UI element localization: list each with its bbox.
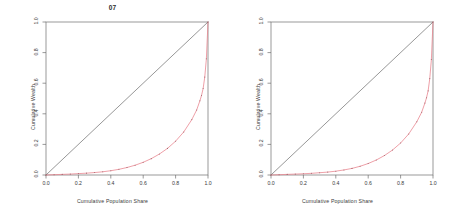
y-axis-label-right: Cumulative Wealth	[255, 84, 261, 130]
lorenz-data-point	[360, 166, 361, 167]
lorenz-data-point	[270, 174, 271, 175]
lorenz-data-point	[203, 88, 204, 89]
y-axis-label-left: Cumulative Wealth	[30, 84, 36, 130]
lorenz-data-point	[287, 174, 288, 175]
lorenz-data-point	[279, 174, 280, 175]
x-tick-label: 0.2	[300, 180, 307, 186]
lorenz-data-point	[311, 173, 312, 174]
x-tick-label: 0.6	[365, 180, 372, 186]
lorenz-data-point	[408, 133, 409, 134]
lorenz-data-point	[376, 159, 377, 160]
y-tick-label: 0.4	[30, 110, 42, 116]
lorenz-data-point	[54, 174, 55, 175]
lorenz-data-point	[327, 172, 328, 173]
lorenz-data-point	[135, 165, 136, 166]
lorenz-data-point	[183, 131, 184, 132]
lorenz-data-point	[45, 174, 46, 175]
lorenz-data-point	[343, 169, 344, 170]
chart-panel-left: 07 Cumulative Population Share Cumulativ…	[0, 0, 225, 214]
chart-panel-right: Cumulative Population Share Cumulative W…	[225, 0, 450, 214]
lorenz-data-point	[159, 153, 160, 154]
lorenz-data-point	[70, 174, 71, 175]
y-tick-label: 0.8	[255, 49, 267, 55]
lorenz-data-point	[295, 174, 296, 175]
x-tick-label: 0.8	[397, 180, 404, 186]
lorenz-data-point	[167, 148, 168, 149]
lorenz-data-point	[196, 109, 197, 110]
lorenz-data-point	[429, 78, 430, 79]
y-tick-label: 1.0	[255, 18, 267, 24]
lorenz-data-point	[62, 174, 63, 175]
lorenz-data-point	[126, 167, 127, 168]
lorenz-data-point	[384, 155, 385, 156]
equality-line	[46, 22, 208, 175]
lorenz-curve-figure: 07 Cumulative Population Share Cumulativ…	[0, 0, 450, 214]
x-axis-label-left: Cumulative Population Share	[0, 198, 225, 204]
lorenz-data-point	[206, 58, 207, 59]
x-tick-label: 0.0	[42, 180, 49, 186]
y-tick-label: 0.6	[255, 79, 267, 85]
x-tick-label: 0.4	[332, 180, 339, 186]
lorenz-data-point	[432, 21, 433, 22]
lorenz-data-point	[426, 97, 427, 98]
lorenz-data-point	[335, 171, 336, 172]
lorenz-data-point	[416, 121, 417, 122]
lorenz-data-point	[400, 142, 401, 143]
y-tick-label: 0.2	[30, 140, 42, 146]
x-tick-label: 0.4	[107, 180, 114, 186]
lorenz-data-point	[110, 170, 111, 171]
lorenz-data-point	[191, 119, 192, 120]
lorenz-data-point	[143, 162, 144, 163]
lorenz-data-point	[94, 172, 95, 173]
lorenz-data-point	[319, 172, 320, 173]
x-axis-label-right: Cumulative Population Share	[225, 198, 450, 204]
lorenz-data-point	[86, 173, 87, 174]
x-tick-label: 0.0	[267, 180, 274, 186]
lorenz-data-point	[431, 59, 432, 60]
lorenz-data-point	[78, 173, 79, 174]
lorenz-data-point	[392, 150, 393, 151]
lorenz-data-point	[204, 77, 205, 78]
lorenz-data-point	[303, 173, 304, 174]
lorenz-data-point	[199, 100, 200, 101]
lorenz-data-point	[118, 169, 119, 170]
x-tick-label: 0.2	[75, 180, 82, 186]
x-tick-label: 1.0	[204, 180, 211, 186]
y-tick-label: 0.6	[30, 79, 42, 85]
y-tick-label: 0.8	[30, 49, 42, 55]
lorenz-data-point	[175, 141, 176, 142]
lorenz-data-point	[207, 21, 208, 22]
equality-line	[271, 22, 433, 175]
x-tick-label: 0.6	[140, 180, 147, 186]
lorenz-data-point	[428, 90, 429, 91]
lorenz-data-point	[424, 103, 425, 104]
y-tick-label: 0.2	[255, 140, 267, 146]
x-tick-label: 1.0	[429, 180, 436, 186]
y-tick-label: 0.0	[30, 171, 42, 177]
y-tick-label: 1.0	[30, 18, 42, 24]
lorenz-data-point	[102, 171, 103, 172]
lorenz-data-point	[351, 168, 352, 169]
lorenz-data-point	[151, 158, 152, 159]
lorenz-data-point	[421, 112, 422, 113]
y-tick-label: 0.0	[255, 171, 267, 177]
lorenz-data-point	[201, 95, 202, 96]
y-tick-label: 0.4	[255, 110, 267, 116]
x-tick-label: 0.8	[172, 180, 179, 186]
lorenz-data-point	[368, 163, 369, 164]
